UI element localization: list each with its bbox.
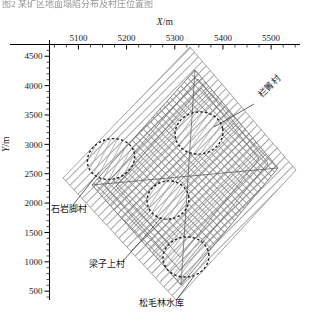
annotation-songmaolin: 松毛林水库 [139, 297, 184, 308]
x-axis-ticks [54, 45, 295, 50]
x-tick-label: 5500 [262, 33, 281, 43]
y-tick-label: 3500 [25, 110, 44, 120]
y-tick-label: 1500 [25, 228, 44, 238]
y-tick-label: 4500 [25, 51, 44, 61]
y-tick-label: 4000 [25, 81, 44, 91]
annotation-shiyanjiao: 石岩脚村 [51, 203, 87, 214]
x-tick-label: 5300 [166, 33, 185, 43]
x-tick-label: 5400 [214, 33, 233, 43]
y-tick-label: 500 [29, 286, 43, 296]
x-tick-label: 5100 [69, 33, 88, 43]
x-axis-tick-labels: 51005200530054005500 [69, 33, 280, 43]
figure-root: 图2 某矿区地面塌陷分布及村庄位置图 X/m Y/m [0, 0, 330, 323]
y-tick-label: 2500 [25, 169, 44, 179]
y-axis-tick-labels: 45004000350030002500200015001000500 [25, 51, 44, 296]
x-tick-label: 5200 [118, 33, 137, 43]
annotation-liangzishang: 梁子上村 [89, 258, 125, 269]
y-axis-ticks [45, 45, 50, 298]
y-tick-label: 3000 [25, 140, 44, 150]
y-tick-label: 1000 [25, 257, 44, 267]
annotation-lanqing: 栏箐村 [256, 73, 283, 100]
y-tick-label: 2000 [25, 198, 44, 208]
map-figure: 51005200530054005500 4500400035003000250… [0, 0, 330, 323]
